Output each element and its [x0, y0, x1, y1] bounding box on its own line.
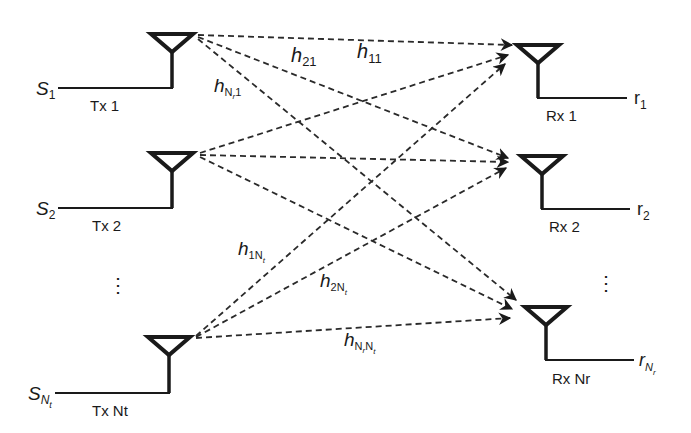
rx-antenna-2 — [521, 156, 630, 209]
channel-links — [196, 35, 516, 338]
output-r2: r2 — [637, 199, 650, 223]
tx-antenna-1 — [58, 34, 193, 88]
tx1-label: Tx 1 — [90, 97, 119, 114]
output-rnr: rNr — [639, 350, 656, 377]
rxnr-label: Rx Nr — [552, 370, 590, 387]
link-tx2-rxNr — [200, 157, 512, 309]
antenna-icon — [151, 34, 193, 52]
link-tx2-rx2 — [200, 155, 508, 162]
rx-ellipsis: ⋮ — [596, 272, 616, 294]
antenna-icon — [148, 337, 190, 355]
txnt-label: Tx Nt — [92, 402, 129, 419]
link-tx1-rx1 — [198, 35, 512, 45]
rx1-label: Rx 1 — [546, 107, 577, 124]
mimo-diagram: S1 S2 SNt Tx 1 Tx 2 Tx Nt ⋮ Rx 1 Rx 2 Rx… — [0, 0, 691, 433]
link-tx1-rx2 — [198, 37, 508, 158]
input-s2: S2 — [36, 198, 56, 222]
label-h2Nt: h2Nt — [320, 270, 348, 297]
label-hNr1: hNr1 — [214, 75, 241, 101]
rx2-label: Rx 2 — [549, 218, 580, 235]
label-h21: h21 — [291, 44, 317, 69]
link-txNt-rx1 — [196, 64, 505, 336]
link-tx1-rxNr — [198, 39, 516, 300]
antenna-icon — [525, 307, 567, 325]
label-h11: h11 — [357, 40, 382, 66]
tx-ellipsis: ⋮ — [108, 274, 128, 296]
antenna-icon — [517, 45, 559, 63]
input-snt: SNt — [28, 383, 52, 410]
rx-antenna-nr — [525, 307, 634, 360]
input-s1: S1 — [36, 78, 56, 102]
tx-antenna-2 — [58, 153, 193, 208]
tx-antenna-nt — [55, 337, 190, 393]
rx-antenna-1 — [517, 45, 627, 98]
label-h1Nt: h1Nt — [238, 238, 266, 265]
antenna-icon — [151, 153, 193, 171]
label-hNrNt: hNrNt — [344, 329, 376, 356]
antenna-icon — [521, 156, 563, 174]
link-tx2-rx1 — [200, 55, 508, 153]
output-r1: r1 — [634, 88, 647, 112]
tx2-label: Tx 2 — [92, 217, 121, 234]
